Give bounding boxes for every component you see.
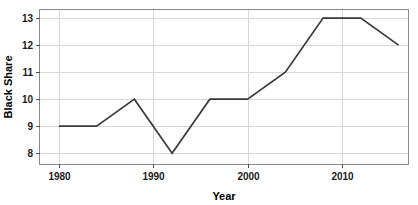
- y-tick-label-9: 9: [27, 121, 33, 132]
- x-tick-label-2010: 2010: [331, 171, 354, 182]
- line-chart: 8910111213 1980199020002010 Black Share …: [0, 0, 418, 205]
- y-tick-label-13: 13: [22, 13, 34, 24]
- x-axis-title: Year: [212, 190, 236, 202]
- y-tick-label-8: 8: [27, 148, 33, 159]
- y-axis-title: Black Share: [2, 56, 14, 119]
- x-tick-label-1980: 1980: [48, 171, 71, 182]
- x-tick-label-1990: 1990: [142, 171, 165, 182]
- y-tick-label-11: 11: [22, 67, 33, 78]
- y-tick-label-10: 10: [22, 94, 34, 105]
- x-tick-label-2000: 2000: [237, 171, 260, 182]
- y-tick-label-12: 12: [22, 40, 34, 51]
- chart-container: 8910111213 1980199020002010 Black Share …: [0, 0, 418, 205]
